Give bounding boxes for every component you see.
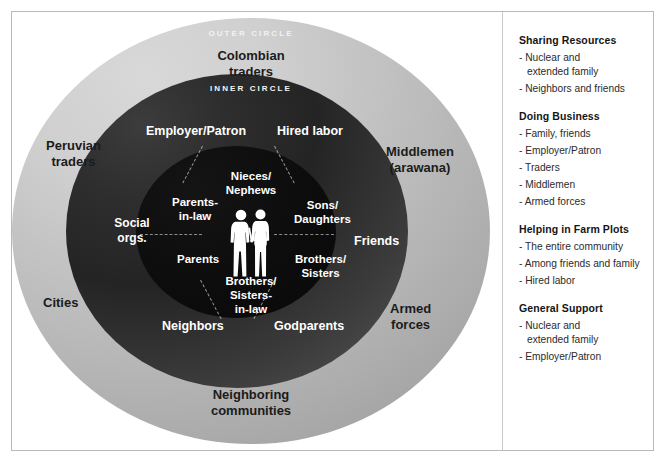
legend-item: - Middlemen bbox=[519, 178, 655, 192]
core-label-nieces-nephews: Nieces/ Nephews bbox=[226, 169, 277, 197]
legend-item: - Among friends and family bbox=[519, 257, 655, 271]
legend-group-general-support: General Support - Nuclear and extended f… bbox=[519, 302, 655, 364]
inner-label-social-orgs: Social orgs. bbox=[108, 216, 156, 245]
legend-item: - Neighbors and friends bbox=[519, 82, 655, 96]
outer-label-middlemen: Middlemen (arawana) bbox=[386, 144, 454, 176]
figure-root: OUTER CIRCLE INNER CIRCLE Colombian trad… bbox=[0, 0, 666, 468]
inner-label-neighbors: Neighbors bbox=[162, 319, 224, 334]
outer-label-armed-forces: Armed forces bbox=[390, 301, 431, 333]
inner-label-hired-labor: Hired labor bbox=[277, 124, 343, 139]
outer-label-colombian-traders: Colombian traders bbox=[217, 48, 284, 80]
legend-item: - Family, friends bbox=[519, 127, 655, 141]
legend-panel: Sharing Resources - Nuclear and extended… bbox=[519, 34, 655, 377]
outer-label-neighboring-communities: Neighboring communities bbox=[211, 387, 291, 419]
core-label-parents-in-law: Parents- in-law bbox=[172, 195, 218, 223]
legend-item: - Nuclear and extended family bbox=[519, 319, 655, 346]
legend-title: Helping in Farm Plots bbox=[519, 223, 655, 235]
inner-label-friends: Friends bbox=[354, 234, 399, 249]
legend-item: - Nuclear and extended family bbox=[519, 51, 655, 78]
concentric-circles-diagram: OUTER CIRCLE INNER CIRCLE Colombian trad… bbox=[12, 12, 490, 450]
outer-label-cities: Cities bbox=[43, 295, 78, 311]
legend-group-helping-in-farm-plots: Helping in Farm Plots - The entire commu… bbox=[519, 223, 655, 288]
couple-silhouette-icon bbox=[228, 208, 274, 278]
legend-title: Sharing Resources bbox=[519, 34, 655, 46]
legend-item: - Employer/Patron bbox=[519, 144, 655, 158]
legend-item: - Traders bbox=[519, 161, 655, 175]
core-label-brothers-sisters-in-law: Brothers/ Sisters- in-law bbox=[225, 274, 276, 316]
core-label-parents: Parents bbox=[177, 252, 219, 266]
legend-group-sharing-resources: Sharing Resources - Nuclear and extended… bbox=[519, 34, 655, 96]
inner-label-godparents: Godparents bbox=[274, 319, 344, 334]
outer-circle-caption: OUTER CIRCLE bbox=[208, 29, 293, 38]
legend-item: - The entire community bbox=[519, 240, 655, 254]
core-label-brothers-sisters: Brothers/ Sisters bbox=[295, 252, 346, 280]
legend-title: Doing Business bbox=[519, 110, 655, 122]
inner-label-employer-patron: Employer/Patron bbox=[146, 124, 246, 139]
core-label-sons-daughters: Sons/ Daughters bbox=[294, 198, 351, 226]
figure-column-divider bbox=[502, 12, 503, 450]
outer-label-peruvian-traders: Peruvian traders bbox=[46, 138, 101, 170]
legend-item: - Employer/Patron bbox=[519, 350, 655, 364]
legend-item: - Hired labor bbox=[519, 274, 655, 288]
legend-title: General Support bbox=[519, 302, 655, 314]
divider-dash-core-right bbox=[274, 234, 334, 235]
legend-item: - Armed forces bbox=[519, 195, 655, 209]
inner-circle-caption: INNER CIRCLE bbox=[210, 84, 292, 93]
legend-group-doing-business: Doing Business - Family, friends - Emplo… bbox=[519, 110, 655, 209]
